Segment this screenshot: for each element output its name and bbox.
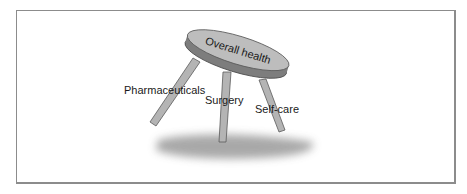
leg-surgery [219, 72, 231, 142]
stool-diagram: Overall health Pharmaceuticals Surgery S… [0, 0, 467, 194]
ground-shadow [156, 135, 313, 159]
label-self-care: Self-care [255, 103, 299, 115]
label-surgery: Surgery [205, 94, 244, 106]
label-pharmaceuticals: Pharmaceuticals [124, 84, 206, 96]
